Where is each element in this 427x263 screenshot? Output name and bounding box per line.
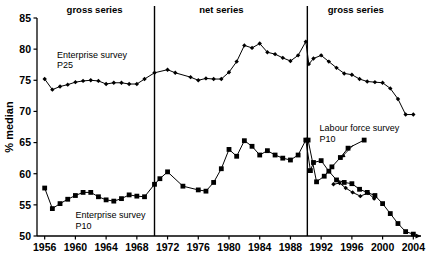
section-labels-layer: gross seriesnet seriesgross series bbox=[67, 4, 384, 15]
x-tick-label-1956: 1956 bbox=[33, 241, 57, 253]
y-tick-label-85: 85 bbox=[19, 12, 31, 24]
y-tick-label-50: 50 bbox=[19, 230, 31, 242]
data-point-marker bbox=[403, 229, 408, 234]
data-point-marker bbox=[306, 138, 311, 143]
data-point-marker bbox=[50, 206, 55, 211]
data-point-marker bbox=[227, 147, 232, 152]
data-point-marker bbox=[257, 153, 262, 158]
x-tick-label-1972: 1972 bbox=[156, 241, 180, 253]
series-divider-lines bbox=[155, 6, 308, 236]
data-point-marker bbox=[104, 197, 109, 202]
data-point-marker bbox=[96, 194, 101, 199]
data-point-marker bbox=[81, 79, 85, 83]
section-label-1: net series bbox=[199, 4, 243, 15]
data-point-marker bbox=[280, 156, 285, 161]
x-axis-arrow-icon bbox=[416, 233, 422, 238]
data-point-marker bbox=[112, 81, 116, 85]
x-tick-label-1968: 1968 bbox=[125, 241, 149, 253]
data-point-marker bbox=[157, 176, 162, 181]
data-point-marker bbox=[380, 201, 385, 206]
x-tick-label-1988: 1988 bbox=[279, 241, 303, 253]
data-point-marker bbox=[196, 78, 200, 82]
y-tick-label-55: 55 bbox=[19, 199, 31, 211]
data-point-marker bbox=[365, 79, 369, 83]
data-point-marker bbox=[396, 221, 401, 226]
annotation-label-5: P10 bbox=[320, 134, 336, 144]
data-point-marker bbox=[338, 155, 343, 160]
data-point-marker bbox=[319, 158, 324, 163]
y-tick-label-60: 60 bbox=[19, 168, 31, 180]
data-point-marker bbox=[211, 77, 215, 81]
data-point-marker bbox=[196, 188, 201, 193]
section-label-2: gross series bbox=[328, 4, 384, 15]
x-tick-label-1996: 1996 bbox=[340, 241, 364, 253]
annotation-label-0: Enterprise survey bbox=[57, 50, 128, 60]
annotations-layer: Enterprise surveyP25Enterprise surveyP10… bbox=[57, 50, 400, 231]
data-point-marker bbox=[403, 112, 407, 116]
x-tick-label-2000: 2000 bbox=[371, 241, 395, 253]
data-point-marker bbox=[373, 80, 377, 84]
x-tick-label-1976: 1976 bbox=[187, 241, 211, 253]
data-point-marker bbox=[358, 194, 362, 198]
data-point-marker bbox=[362, 138, 367, 143]
x-tick-label-1960: 1960 bbox=[64, 241, 88, 253]
annotation-label-1: P25 bbox=[57, 60, 73, 70]
data-point-marker bbox=[152, 182, 157, 187]
data-point-marker bbox=[188, 75, 192, 79]
x-tick-label-1980: 1980 bbox=[217, 241, 241, 253]
y-axis-title: % median bbox=[3, 101, 15, 153]
data-point-marker bbox=[308, 168, 313, 173]
data-point-marker bbox=[250, 46, 254, 50]
data-point-marker bbox=[134, 194, 139, 199]
x-tick-label-2004: 2004 bbox=[402, 241, 426, 253]
data-point-marker bbox=[330, 164, 335, 169]
data-point-marker bbox=[204, 189, 209, 194]
y-tick-label-65: 65 bbox=[19, 136, 31, 148]
data-point-marker bbox=[273, 52, 277, 56]
data-point-marker bbox=[66, 82, 70, 86]
data-point-marker bbox=[296, 153, 301, 158]
data-point-marker bbox=[96, 79, 100, 83]
data-point-marker bbox=[111, 199, 116, 204]
data-point-marker bbox=[127, 192, 132, 197]
data-point-marker bbox=[119, 196, 124, 201]
data-point-marker bbox=[119, 81, 123, 85]
data-point-marker bbox=[357, 77, 361, 81]
data-series-layer bbox=[42, 39, 415, 236]
annotation-label-4: Labour force survey bbox=[320, 123, 400, 133]
data-point-marker bbox=[349, 181, 354, 186]
data-point-marker bbox=[88, 190, 93, 195]
data-point-marker bbox=[357, 187, 362, 192]
data-point-marker bbox=[242, 43, 246, 47]
data-point-marker bbox=[73, 80, 77, 84]
data-point-marker bbox=[104, 82, 108, 86]
data-point-marker bbox=[242, 138, 247, 143]
data-point-marker bbox=[65, 197, 70, 202]
y-tick-label-80: 80 bbox=[19, 43, 31, 55]
data-point-marker bbox=[322, 174, 327, 179]
x-tick-label-1984: 1984 bbox=[248, 241, 272, 253]
data-point-marker bbox=[411, 112, 415, 116]
data-point-marker bbox=[211, 180, 216, 185]
x-tick-label-1964: 1964 bbox=[94, 241, 118, 253]
data-point-marker bbox=[58, 201, 63, 206]
data-point-marker bbox=[73, 193, 78, 198]
y-tick-label-70: 70 bbox=[19, 105, 31, 117]
data-point-marker bbox=[81, 190, 86, 195]
data-point-marker bbox=[273, 153, 278, 158]
data-point-marker bbox=[234, 154, 239, 159]
data-point-marker bbox=[42, 186, 47, 191]
data-point-marker bbox=[342, 180, 347, 185]
data-point-marker bbox=[165, 67, 169, 71]
data-point-marker bbox=[281, 56, 285, 60]
y-tick-label-75: 75 bbox=[19, 74, 31, 86]
data-point-marker bbox=[288, 158, 293, 163]
series-line bbox=[308, 140, 364, 182]
data-point-marker bbox=[219, 166, 224, 171]
series-1 bbox=[42, 138, 415, 237]
data-point-marker bbox=[165, 169, 170, 174]
x-tick-label-1992: 1992 bbox=[309, 241, 333, 253]
annotation-label-2: Enterprise survey bbox=[75, 210, 146, 220]
annotation-label-3: P10 bbox=[75, 221, 91, 231]
data-point-marker bbox=[181, 184, 186, 189]
